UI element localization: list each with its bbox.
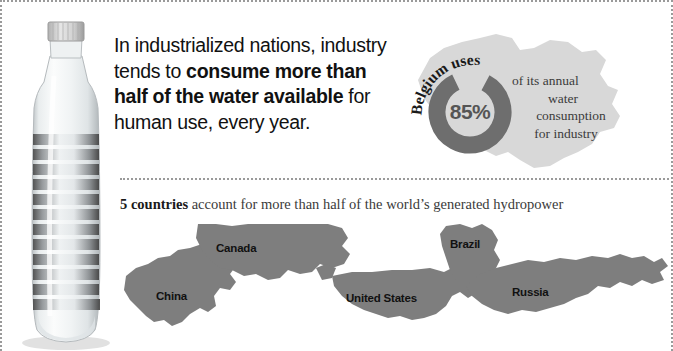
- belgium-copy-line-1: of its annual: [512, 72, 632, 90]
- belgium-description: of its annual water consumption for indu…: [512, 72, 632, 142]
- hydropower-statement: 5 countries account for more than half o…: [120, 194, 672, 214]
- bottle-cap: [48, 22, 84, 41]
- belgium-stat-block: Belgium uses 85% of its annual water con…: [400, 28, 668, 178]
- map-label-canada: Canada: [216, 242, 257, 254]
- belgium-copy-line-3: consumption: [512, 107, 632, 125]
- hydropower-lead: 5 countries: [120, 196, 188, 212]
- map-label-united-states: United States: [346, 292, 417, 304]
- country-maps-svg: China Canada United States Brazil R: [120, 224, 673, 351]
- hydropower-rest: account for more than half of the world’…: [188, 196, 563, 212]
- infographic-root: In industrialized nations, industry tend…: [0, 0, 673, 351]
- headline-text: In industrialized nations, industry tend…: [114, 33, 404, 135]
- country-maps-group: China Canada United States Brazil R: [120, 224, 673, 351]
- map-united-states: United States: [332, 268, 472, 320]
- belgium-copy-line-2: water: [512, 90, 632, 108]
- water-bottle-illustration: [10, 16, 118, 351]
- section-divider: [120, 178, 669, 180]
- map-label-china: China: [156, 290, 188, 302]
- water-bottle-photo: [10, 16, 118, 351]
- map-label-brazil: Brazil: [450, 238, 480, 250]
- belgium-percent-label: 85%: [422, 64, 518, 160]
- map-label-russia: Russia: [512, 286, 549, 298]
- belgium-copy-line-4: for industry: [512, 125, 632, 143]
